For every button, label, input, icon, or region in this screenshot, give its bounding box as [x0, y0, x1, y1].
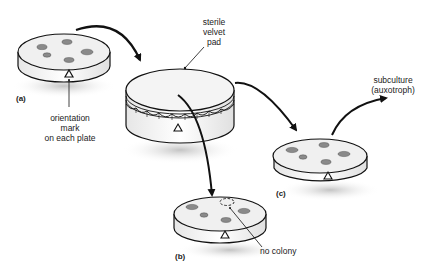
orientation-line3: on each plate [40, 133, 100, 143]
label-orientation-mark: orientation mark on each plate [40, 113, 100, 143]
replica-plating-diagram: (a) orientation mark on each plate steri… [0, 0, 424, 269]
pad-line1: sterile [194, 17, 234, 27]
arrow-pad-to-c [235, 83, 296, 130]
pad-line3: pad [194, 37, 234, 47]
pad-pointer [185, 47, 204, 68]
label-velvet-pad: sterile velvet pad [194, 17, 234, 47]
plate-a [12, 34, 116, 98]
label-b: (b) [175, 252, 185, 262]
arrow-c-to-subculture [332, 98, 386, 135]
plate-c [273, 139, 380, 201]
orientation-line1: orientation [40, 113, 100, 123]
label-c: (c) [276, 189, 286, 199]
orientation-line2: mark [40, 123, 100, 133]
subculture-line1: subculture [365, 75, 421, 85]
label-a: (a) [16, 94, 26, 104]
velvet-pad [122, 69, 238, 164]
label-subculture: subculture (auxotroph) [365, 75, 421, 95]
subculture-line2: (auxotroph) [365, 85, 421, 95]
label-no-colony: no colony [260, 246, 296, 256]
pad-line2: velvet [194, 27, 234, 37]
